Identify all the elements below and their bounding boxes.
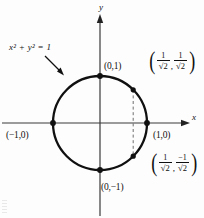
equation-leader-line — [45, 56, 64, 76]
denominator-x-upper: √2 — [158, 62, 169, 71]
denominator-y-lower: √2 — [177, 164, 188, 173]
denominator-y-upper: √2 — [175, 62, 186, 71]
close-paren-upper: ) — [189, 51, 195, 72]
numerator-x-upper: 1 — [160, 52, 166, 60]
point-label-left: (−1,0) — [6, 131, 28, 141]
y-axis-label: y — [99, 3, 103, 12]
point-dot-right — [144, 120, 150, 126]
y-axis-arrowhead — [97, 14, 103, 23]
x-axis-label: x — [192, 113, 196, 122]
point-dot-bottom — [97, 167, 103, 173]
unit-circle-figure: y x x² + y² = 1 (0,1) (−1,0) (1,0) (0,−1… — [0, 0, 204, 218]
numerator-x-lower: 1 — [162, 154, 168, 162]
x-axis-arrowhead — [181, 120, 190, 126]
point-dot-top — [97, 73, 103, 79]
leader-stroke — [45, 56, 61, 72]
denominator-x-lower: √2 — [160, 164, 171, 173]
x-axis — [2, 120, 190, 126]
point-label-bottom: (0,−1) — [101, 183, 123, 193]
fraction-y-lower: −1 √2 — [176, 154, 190, 173]
coordinate-label-upper-right: ( 1 √2 , 1 √2 ) — [148, 51, 196, 72]
circle-equation-label: x² + y² = 1 — [9, 43, 51, 52]
fraction-x-lower: 1 √2 — [158, 154, 172, 173]
open-paren-lower: ( — [151, 153, 157, 174]
coordinate-label-lower-right: ( 1 √2 , −1 √2 ) — [150, 153, 198, 174]
fraction-y-upper: 1 √2 — [174, 52, 188, 71]
open-paren-upper: ( — [149, 51, 155, 72]
point-dot-left — [50, 120, 56, 126]
scan-artifact — [2, 200, 7, 214]
numerator-y-lower: −1 — [177, 154, 188, 162]
point-label-top: (0,1) — [104, 62, 121, 72]
fraction-x-upper: 1 √2 — [156, 52, 170, 71]
close-paren-lower: ) — [191, 153, 197, 174]
point-label-right: (1,0) — [153, 131, 170, 141]
numerator-y-upper: 1 — [178, 52, 184, 60]
point-dot-lower-right — [131, 154, 136, 159]
point-dot-upper-right — [131, 87, 136, 92]
